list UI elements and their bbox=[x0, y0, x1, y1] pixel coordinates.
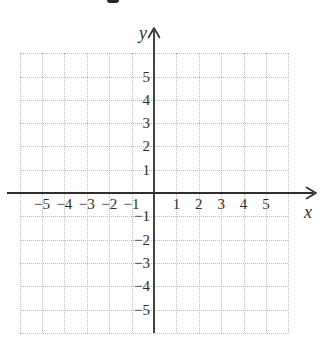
y-tick-label: 4 bbox=[114, 91, 150, 109]
coordinate-plane: y x −5−4−3−2−11234554321−1−2−3−4−5 bbox=[0, 0, 328, 354]
axes bbox=[0, 0, 328, 354]
y-tick-label: −3 bbox=[114, 254, 150, 272]
x-axis-label: x bbox=[295, 203, 321, 221]
y-tick-label: 3 bbox=[114, 114, 150, 132]
y-tick-label: −5 bbox=[114, 301, 150, 319]
y-tick-label: 5 bbox=[114, 68, 150, 86]
y-tick-label: 1 bbox=[114, 161, 150, 179]
y-tick-label: −2 bbox=[114, 231, 150, 249]
y-tick-label: −4 bbox=[114, 277, 150, 295]
x-tick-label: 5 bbox=[253, 195, 279, 213]
y-tick-label: 2 bbox=[114, 137, 150, 155]
y-axis-label: y bbox=[121, 24, 147, 42]
y-tick-label: −1 bbox=[114, 207, 150, 225]
